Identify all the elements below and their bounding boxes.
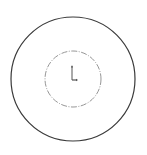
origin-icon	[71, 65, 78, 81]
sketch-svg	[0, 0, 147, 155]
origin-y-arrow-icon	[71, 65, 73, 68]
sketch-canvas	[0, 0, 147, 155]
outer-circle	[11, 17, 135, 141]
inner-circle	[45, 51, 101, 107]
origin-x-arrow-icon	[76, 79, 78, 81]
